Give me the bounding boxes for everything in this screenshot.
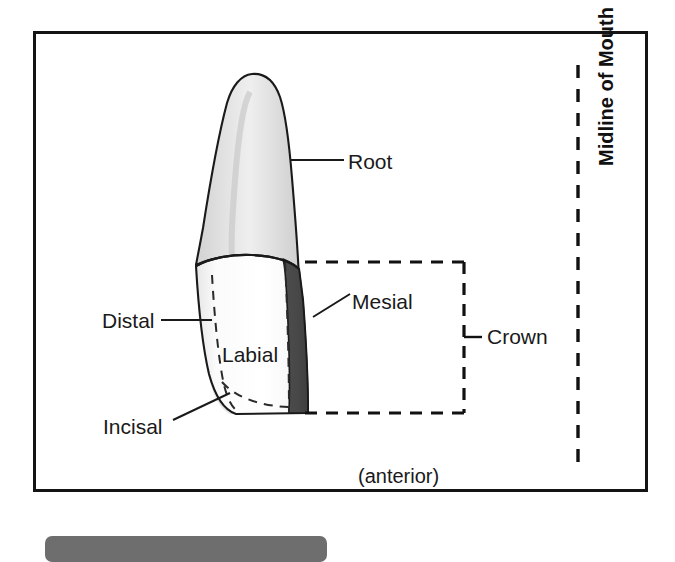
label-labial: Labial [222, 344, 278, 365]
label-anterior: (anterior) [358, 466, 439, 486]
label-distal: Distal [102, 310, 155, 331]
label-incisal: Incisal [103, 416, 163, 437]
label-midline-of-mouth: Midline of Mouth [595, 7, 618, 166]
label-mesial: Mesial [352, 291, 413, 312]
label-crown: Crown [487, 326, 548, 347]
label-root: Root [348, 151, 392, 172]
bottom-gray-bar [45, 536, 327, 562]
